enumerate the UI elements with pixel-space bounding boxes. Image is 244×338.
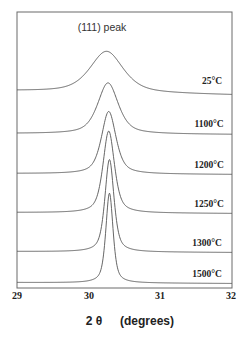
series-label-1200c: 1200°C [194, 160, 224, 170]
x-tick-31: 31 [155, 290, 165, 301]
series-label-1300c: 1300°C [192, 238, 222, 248]
series-label-1500c: 1500°C [192, 269, 222, 279]
x-axis-label-theta: 2 θ [86, 314, 103, 328]
trace-25c [17, 51, 232, 94]
series-label-25c: 25°C [202, 76, 222, 86]
series-label-1250c: 1250°C [194, 199, 224, 209]
x-tick-30: 30 [84, 290, 94, 301]
series-label-1100c: 1100°C [194, 119, 223, 129]
peak-annotation: (111) peak [78, 21, 127, 33]
x-axis-label-unit: (degrees) [120, 314, 174, 328]
xrd-chart: (111) peak 25°C 1100°C 1200°C 1250°C 130… [0, 0, 244, 338]
x-tick-32: 32 [226, 290, 236, 301]
x-tick-29: 29 [12, 290, 22, 301]
